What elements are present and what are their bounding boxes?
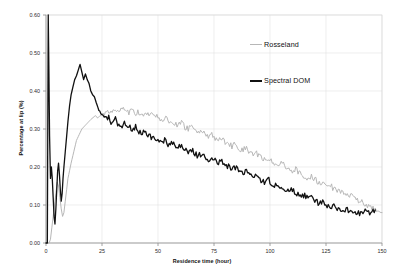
x-axis-title: Residence time (hour) xyxy=(0,258,404,264)
legend-label-rosseland: Rosseland xyxy=(264,40,299,49)
legend-swatch-rosseland xyxy=(250,44,262,45)
axis-ticks xyxy=(43,15,382,246)
y-tick-label: 0.60 xyxy=(16,12,40,18)
y-tick-label: 0.10 xyxy=(16,202,40,208)
x-tick-label: 50 xyxy=(143,248,173,254)
y-tick-label: 0.00 xyxy=(16,240,40,246)
x-tick-label: 0 xyxy=(31,248,61,254)
legend-label-spectral-dom: Spectral DOM xyxy=(264,76,310,85)
x-tick-label: 25 xyxy=(87,248,117,254)
legend-item-rosseland: Rosseland xyxy=(250,40,299,49)
x-tick-label: 75 xyxy=(199,248,229,254)
y-axis-title: Percentage at lip (%) xyxy=(18,63,24,193)
chart-figure: 0.000.100.200.300.400.500.60 02550751001… xyxy=(0,0,404,279)
line-chart xyxy=(0,0,404,279)
legend-swatch-spectral-dom xyxy=(250,80,262,82)
y-tick-label: 0.50 xyxy=(16,50,40,56)
legend-item-spectral-dom: Spectral DOM xyxy=(250,76,310,85)
x-tick-label: 125 xyxy=(311,248,341,254)
x-tick-label: 100 xyxy=(255,248,285,254)
x-tick-label: 150 xyxy=(367,248,397,254)
